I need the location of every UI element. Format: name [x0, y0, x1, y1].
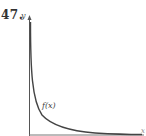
- y-axis-arrow: [28, 15, 32, 20]
- plot-area: [0, 0, 146, 136]
- f-curve: [31, 22, 143, 135]
